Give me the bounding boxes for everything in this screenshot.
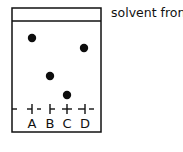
spot-c <box>63 91 71 99</box>
spot-b <box>46 72 54 80</box>
lane-label-c: C <box>62 116 71 131</box>
lane-labels: ABCD <box>28 116 90 131</box>
tlc-plate <box>12 8 101 132</box>
spot-d <box>80 44 88 52</box>
solvent-front-label: solvent front <box>111 5 183 20</box>
tlc-diagram: ABCD <box>0 0 183 152</box>
lane-label-b: B <box>46 116 55 131</box>
lane-label-d: D <box>80 116 90 131</box>
spots <box>28 34 88 99</box>
spot-a <box>28 34 36 42</box>
lane-label-a: A <box>28 116 37 131</box>
